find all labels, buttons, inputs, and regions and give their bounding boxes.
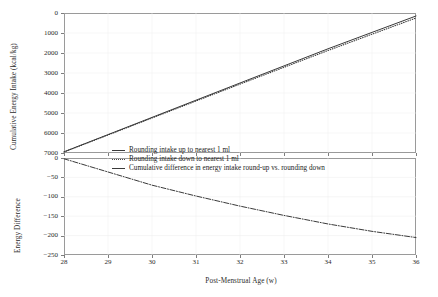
tick-mark	[61, 53, 64, 54]
tick-mark	[108, 255, 109, 258]
upper-y-tick-2: 5000	[24, 109, 58, 117]
upper-y-axis-title: Cumulative Energy Intake (kcal/kg)	[10, 43, 18, 150]
lower-panel-plot	[64, 158, 416, 255]
tick-mark	[416, 153, 417, 156]
x-tick-0: 28	[52, 258, 76, 266]
tick-mark	[61, 216, 64, 217]
tick-mark	[152, 255, 153, 258]
tick-mark	[61, 113, 64, 114]
upper-y-tick-5: 2000	[24, 49, 58, 57]
upper-y-tick-6: 1000	[24, 29, 58, 37]
figure: Cumulative Energy Intake (kcal/kg) Energ…	[0, 0, 438, 297]
lower-y-tick-1: −50	[24, 173, 58, 181]
legend-item-rounding-down: Rounding intake down to nearest 1 ml	[112, 155, 325, 163]
tick-mark	[64, 255, 65, 258]
legend: Rounding intake up to nearest 1 ml Round…	[112, 146, 325, 172]
lower-y-tick-4: −200	[24, 231, 58, 239]
upper-y-tick-1: 6000	[24, 129, 58, 137]
lower-y-tick-0: 0	[24, 154, 58, 162]
legend-line-solid-icon	[112, 147, 125, 154]
tick-mark	[372, 153, 373, 156]
lower-y-tick-3: −150	[24, 212, 58, 220]
tick-mark	[372, 255, 373, 258]
legend-item-rounding-up: Rounding intake up to nearest 1 ml	[112, 146, 325, 154]
tick-mark	[61, 73, 64, 74]
tick-mark	[240, 255, 241, 258]
legend-item-cumulative-difference: Cumulative difference in energy intake r…	[112, 164, 325, 172]
tick-mark	[416, 255, 417, 258]
tick-mark	[108, 153, 109, 156]
tick-mark	[284, 255, 285, 258]
upper-panel-plot	[64, 13, 416, 153]
legend-line-dotted-icon	[112, 156, 125, 163]
tick-mark	[61, 197, 64, 198]
x-tick-6: 34	[316, 258, 340, 266]
x-tick-2: 30	[140, 258, 164, 266]
tick-mark	[328, 153, 329, 156]
legend-label-rounding-up: Rounding intake up to nearest 1 ml	[129, 146, 230, 154]
tick-mark	[61, 33, 64, 34]
tick-mark	[61, 133, 64, 134]
tick-mark	[328, 255, 329, 258]
x-tick-8: 36	[404, 258, 428, 266]
tick-mark	[196, 255, 197, 258]
tick-mark	[61, 13, 64, 14]
x-axis-title: Post-Menstrual Age (w)	[0, 277, 438, 285]
lower-y-tick-2: −100	[24, 192, 58, 200]
x-tick-1: 29	[96, 258, 120, 266]
upper-y-tick-4: 3000	[24, 69, 58, 77]
legend-label-rounding-down: Rounding intake down to nearest 1 ml	[129, 155, 239, 163]
x-tick-5: 33	[272, 258, 296, 266]
tick-mark	[64, 153, 65, 156]
legend-line-dashdot-icon	[112, 165, 125, 172]
legend-label-cumulative-difference: Cumulative difference in energy intake r…	[129, 164, 325, 172]
x-tick-4: 32	[228, 258, 252, 266]
tick-mark	[61, 158, 64, 159]
x-tick-3: 31	[184, 258, 208, 266]
lower-y-axis-title: Energy Difference	[14, 198, 22, 253]
tick-mark	[61, 177, 64, 178]
upper-y-tick-3: 4000	[24, 89, 58, 97]
tick-mark	[61, 236, 64, 237]
x-tick-7: 35	[360, 258, 384, 266]
tick-mark	[61, 93, 64, 94]
upper-y-tick-7: 0	[24, 9, 58, 17]
